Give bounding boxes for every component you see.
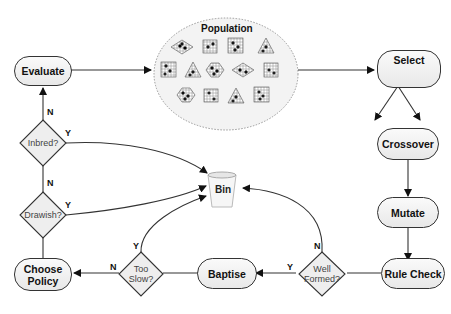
too-slow-line2: Slow? (119, 274, 163, 284)
edge-drawish-bin (66, 186, 206, 215)
inbred-yes-label: Y (65, 128, 71, 138)
inbred-no-label: N (47, 107, 54, 117)
crossover-node[interactable]: Crossover (377, 128, 439, 160)
evaluate-node[interactable]: Evaluate (14, 56, 72, 86)
too-slow-yes-label: Y (133, 241, 139, 251)
well-formed-no-label: N (314, 241, 321, 251)
edge-tooslow-bin (141, 196, 206, 252)
baptise-node[interactable]: Baptise (197, 258, 257, 289)
well-formed-line1: Well (298, 264, 346, 274)
too-slow-no-label: N (110, 262, 117, 272)
well-formed-yes-label: Y (287, 262, 293, 272)
well-formed-label: Well Formed? (298, 264, 346, 284)
edge-inbred-bin (66, 142, 207, 173)
bin-label: Bin (215, 184, 231, 195)
choose-policy-line1: Choose (24, 263, 63, 275)
choose-policy-line2: Policy (28, 275, 59, 287)
edge-wellformed-bin (243, 188, 322, 252)
rule-check-node[interactable]: Rule Check (381, 258, 445, 289)
choose-policy-node[interactable]: Choose Policy (14, 258, 72, 291)
select-node[interactable]: Select (377, 50, 441, 88)
inbred-label: Inbred? (20, 138, 66, 148)
well-formed-line2: Formed? (298, 274, 346, 284)
too-slow-label: Too Slow? (119, 264, 163, 284)
too-slow-line1: Too (119, 264, 163, 274)
drawish-label: Drawish? (18, 210, 68, 220)
drawish-yes-label: Y (65, 200, 71, 210)
select-label: Select (394, 54, 425, 66)
population-title: Population (201, 23, 253, 34)
edge-select-crossover-a (375, 86, 398, 120)
mutate-node[interactable]: Mutate (377, 197, 439, 228)
edge-select-crossover-b (398, 86, 420, 120)
drawish-no-label: N (47, 178, 54, 188)
